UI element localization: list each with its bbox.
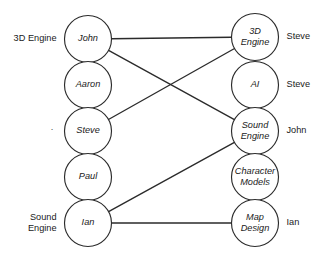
side-label-ian: Engine bbox=[28, 223, 57, 233]
edge-ian-sound-engine bbox=[109, 142, 235, 211]
node-ian[interactable]: Ian bbox=[65, 200, 112, 247]
node-label-character-models: Models bbox=[240, 177, 270, 187]
side-label-3d-engine: Steve bbox=[287, 31, 311, 41]
node-map-design[interactable]: MapDesign bbox=[232, 200, 279, 247]
node-label-3d-engine: 3D bbox=[249, 26, 261, 36]
node-aaron[interactable]: Aaron bbox=[65, 62, 112, 109]
node-label-character-models: Character bbox=[235, 166, 276, 176]
node-label-sound-engine: Engine bbox=[241, 131, 270, 141]
node-label-3d-engine: Engine bbox=[241, 37, 270, 47]
diagram-canvas: JohnAaronStevePaulIan3DEngineAISoundEngi… bbox=[0, 0, 327, 254]
node-label-john: John bbox=[77, 33, 98, 43]
node-label-paul: Paul bbox=[79, 171, 98, 181]
node-character-models[interactable]: CharacterModels bbox=[232, 154, 279, 201]
side-label-sound-engine: John bbox=[287, 125, 307, 135]
node-label-ian: Ian bbox=[82, 217, 95, 227]
edges-layer bbox=[108, 37, 234, 223]
node-steve[interactable]: Steve bbox=[65, 108, 112, 155]
side-label-john: 3D Engine bbox=[14, 33, 57, 43]
side-label-ai: Steve bbox=[287, 79, 311, 89]
side-label-map-design: Ian bbox=[287, 217, 300, 227]
edge-john-3d-engine bbox=[112, 37, 232, 38]
node-john[interactable]: John bbox=[65, 16, 112, 63]
markers-layer: · bbox=[50, 124, 53, 134]
steve-row-marker: · bbox=[50, 124, 53, 134]
node-label-steve: Steve bbox=[76, 125, 100, 135]
node-3d-engine[interactable]: 3DEngine bbox=[232, 14, 279, 61]
node-ai[interactable]: AI bbox=[232, 62, 279, 109]
node-paul[interactable]: Paul bbox=[65, 154, 112, 201]
node-label-map-design: Design bbox=[241, 223, 270, 233]
side-label-ian: Sound bbox=[30, 212, 57, 222]
nodes-layer: JohnAaronStevePaulIan3DEngineAISoundEngi… bbox=[65, 14, 279, 247]
bipartite-graph: JohnAaronStevePaulIan3DEngineAISoundEngi… bbox=[0, 0, 327, 254]
node-label-aaron: Aaron bbox=[75, 79, 101, 89]
node-label-sound-engine: Sound bbox=[242, 120, 269, 130]
node-label-ai: AI bbox=[250, 79, 260, 89]
node-label-map-design: Map bbox=[246, 212, 264, 222]
node-sound-engine[interactable]: SoundEngine bbox=[232, 108, 279, 155]
